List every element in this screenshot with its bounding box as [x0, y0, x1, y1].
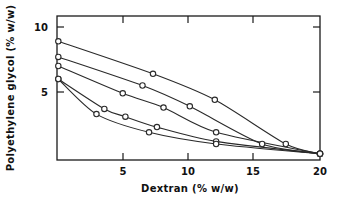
- data-point-marker: [94, 111, 99, 116]
- data-point-marker: [187, 104, 192, 109]
- data-point-marker: [146, 130, 151, 135]
- x-axis-tick-label-10: 10: [181, 166, 195, 177]
- x-axis-tick-label-20: 20: [313, 166, 327, 177]
- data-point-marker: [213, 130, 218, 135]
- data-point-marker: [56, 54, 61, 59]
- data-point-marker: [161, 105, 166, 110]
- curve-layer: [56, 39, 323, 157]
- data-point-marker: [154, 124, 159, 129]
- data-point-marker: [102, 106, 107, 111]
- data-point-marker: [150, 71, 155, 76]
- y-axis-title: Polyethylene glycol (% w/w): [5, 5, 16, 172]
- data-point-marker: [56, 76, 61, 81]
- data-point-marker: [259, 141, 264, 146]
- data-point-marker: [317, 151, 322, 156]
- y-axis-tick-label-10: 10: [34, 22, 48, 33]
- phase-diagram-chart: 10 5 5 10 15 20 Dextran (% w/w) Polyethy…: [0, 0, 350, 202]
- data-point-marker: [56, 63, 61, 68]
- data-point-marker: [212, 97, 217, 102]
- data-point-marker: [140, 83, 145, 88]
- data-point-marker: [283, 141, 288, 146]
- data-point-marker: [120, 91, 125, 96]
- x-axis-tick-label-15: 15: [246, 166, 260, 177]
- y-axis-tick-label-5: 5: [41, 87, 48, 98]
- x-axis-title: Dextran (% w/w): [141, 183, 239, 194]
- data-curve: [58, 41, 320, 153]
- data-point-marker: [123, 114, 128, 119]
- x-axis-tick-label-5: 5: [120, 166, 127, 177]
- data-point-marker: [213, 141, 218, 146]
- data-point-marker: [56, 39, 61, 44]
